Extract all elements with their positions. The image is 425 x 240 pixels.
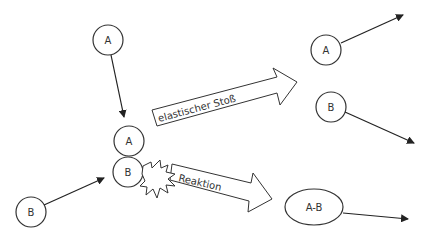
particle-a-collision-label: A bbox=[126, 136, 133, 147]
arrow-a-outgoing bbox=[341, 15, 403, 43]
particle-a-initial-label: A bbox=[105, 35, 112, 46]
product-ab: A-B bbox=[285, 189, 343, 225]
elastic-collision-arrow: elastischer Stoß bbox=[152, 68, 297, 126]
reaction-arrow: Reaktion bbox=[170, 164, 272, 212]
arrow-product-outgoing bbox=[343, 213, 408, 219]
particle-a-after-label: A bbox=[323, 45, 330, 56]
arrow-b-incoming bbox=[44, 178, 104, 205]
particle-a-initial: A bbox=[93, 25, 123, 55]
particle-b-after-elastic: B bbox=[316, 92, 346, 122]
collision-diagram: A B elastischer Stoß Reaktion A B A B bbox=[0, 0, 425, 240]
particle-b-initial: B bbox=[16, 197, 46, 227]
particle-b-collision-label: B bbox=[125, 167, 132, 178]
particle-b-collision: B bbox=[113, 157, 143, 187]
particle-a-after-elastic: A bbox=[311, 35, 341, 65]
particle-b-initial-label: B bbox=[28, 207, 35, 218]
particle-a-collision: A bbox=[114, 126, 144, 156]
arrow-a-incoming bbox=[111, 55, 124, 117]
particle-b-after-label: B bbox=[328, 102, 335, 113]
product-ab-label: A-B bbox=[306, 202, 323, 213]
arrow-b-outgoing bbox=[345, 112, 414, 143]
